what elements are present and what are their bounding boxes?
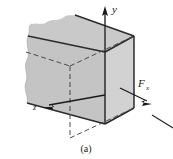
stress-element-diagram: y z F x (a) xyxy=(0,0,173,159)
figure-caption: (a) xyxy=(80,143,91,155)
z-axis-label: z xyxy=(32,102,37,112)
figure-container: y z F x (a) xyxy=(0,0,173,159)
force-x-sublabel: x xyxy=(145,84,150,92)
force-x-label: F xyxy=(137,77,145,89)
cut-continuation-line xyxy=(152,115,173,128)
y-axis-label: y xyxy=(111,3,117,15)
